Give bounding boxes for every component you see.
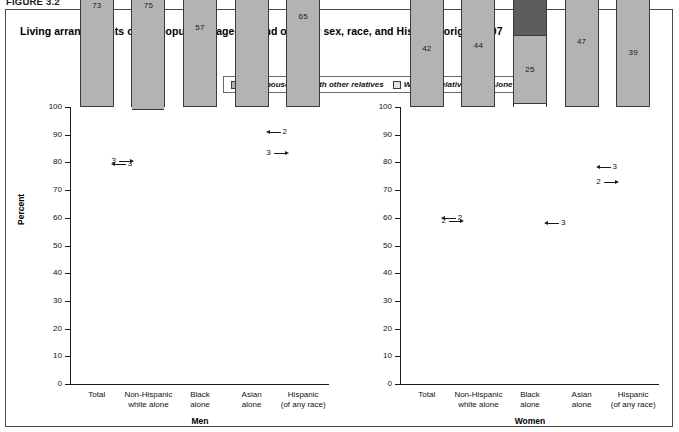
y-axis-tick — [65, 107, 70, 108]
value-callout: 2 — [596, 178, 600, 186]
y-axis-tick-label: 20 — [354, 325, 392, 333]
stacked-bar: 401444 — [461, 0, 495, 107]
callout-arrow-icon — [615, 180, 619, 184]
stacked-bar: 2941057 — [183, 0, 217, 107]
stacked-bar: 391742 — [410, 0, 444, 107]
bar-value-label: 57 — [195, 24, 204, 32]
y-axis-tick — [395, 301, 400, 302]
y-axis-tick — [65, 329, 70, 330]
bar-segment-with-spouse: 84 — [236, 0, 268, 107]
y-axis-tick-label: 50 — [24, 242, 62, 250]
x-axis-line — [70, 384, 329, 385]
callout-leader-line — [548, 223, 559, 224]
panel-group-label: Men — [71, 416, 329, 426]
value-callout: 2 — [441, 217, 445, 225]
callout-leader-line — [270, 132, 281, 133]
bar-value-label: 25 — [525, 66, 534, 74]
y-axis-tick — [395, 356, 400, 357]
callout-leader-line — [600, 167, 611, 168]
y-axis-tick — [395, 384, 400, 385]
y-axis-tick-label: 60 — [24, 214, 62, 222]
panel-group-label: Women — [401, 416, 659, 426]
callout-leader-line — [449, 221, 460, 222]
bar-segment-with-spouse: 75 — [132, 0, 164, 110]
legend-label: With other relatives — [309, 80, 383, 89]
bar-value-label: 75 — [144, 2, 153, 10]
y-axis-tick-label: 90 — [24, 131, 62, 139]
x-axis-line — [400, 384, 659, 385]
stacked-bar: 151765 — [286, 0, 320, 107]
callout-arrow-icon — [460, 219, 464, 223]
callout-leader-line — [445, 218, 456, 219]
category-label-line1: Hispanic — [594, 390, 672, 400]
y-axis-tick — [395, 135, 400, 136]
value-callout: 3 — [613, 163, 617, 171]
category-label-line1: Hispanic — [264, 390, 342, 400]
callout-leader-line — [119, 161, 130, 162]
y-axis-tick-label: 90 — [354, 131, 392, 139]
callout-arrow-icon — [266, 130, 270, 134]
y-axis-tick — [65, 246, 70, 247]
y-axis-line — [70, 107, 71, 384]
y-axis-tick-label: 70 — [24, 186, 62, 194]
y-axis-tick-label: 0 — [24, 380, 62, 388]
bar-value-label: 42 — [422, 45, 431, 53]
y-axis-tick — [65, 384, 70, 385]
bar-value-label: 47 — [577, 38, 586, 46]
value-callout: 3 — [561, 219, 565, 227]
y-axis-tick — [65, 273, 70, 274]
category-label-line2: (of any race) — [264, 400, 342, 410]
bar-segment-with-spouse: 47 — [566, 0, 598, 107]
y-axis-tick-label: 60 — [354, 214, 392, 222]
y-axis-line — [400, 107, 401, 384]
category-label-line2: (of any race) — [594, 400, 672, 410]
y-axis-title: Percent — [16, 194, 26, 225]
y-axis-tick-label: 50 — [354, 242, 392, 250]
y-axis-tick-label: 40 — [24, 269, 62, 277]
callout-arrow-icon — [285, 151, 289, 155]
figure-number: FIGURE 3.2 — [6, 0, 60, 7]
y-axis-tick — [395, 107, 400, 108]
bar-value-label: 65 — [299, 13, 308, 21]
y-axis-tick-label: 30 — [354, 297, 392, 305]
y-axis-tick — [65, 356, 70, 357]
y-axis-tick — [395, 190, 400, 191]
y-axis-tick — [395, 162, 400, 163]
y-axis-tick — [395, 273, 400, 274]
stacked-bar: 263339 — [616, 0, 650, 107]
stacked-bar: 203047 — [565, 0, 599, 107]
stacked-bar: 8684 — [235, 0, 269, 107]
callout-arrow-icon — [130, 159, 134, 163]
bar-segment-with-spouse: 44 — [462, 0, 494, 107]
figure-panel: Living arrangements of the population ag… — [5, 9, 673, 427]
bar-value-label: 44 — [474, 42, 483, 50]
y-axis-tick-label: 80 — [354, 158, 392, 166]
y-axis-tick-label: 30 — [24, 297, 62, 305]
bar-segment-with-spouse: 39 — [617, 0, 649, 107]
callout-leader-line — [274, 153, 285, 154]
y-axis-tick-label: 20 — [24, 325, 62, 333]
bar-segment-with-spouse: 42 — [411, 0, 443, 107]
y-axis-tick-label: 80 — [24, 158, 62, 166]
value-callout: 2 — [283, 128, 287, 136]
bar-value-label: 39 — [629, 49, 638, 57]
stacked-bar: 19573 — [80, 0, 114, 107]
bar-segment-with-spouse: 25 — [514, 35, 546, 104]
callout-arrow-icon — [596, 165, 600, 169]
y-axis-tick — [65, 190, 70, 191]
value-callout: 3 — [266, 149, 270, 157]
y-axis-tick — [395, 218, 400, 219]
legend-swatch-icon-with_nonrelatives — [393, 81, 401, 89]
bar-segment-with-spouse: 57 — [184, 0, 216, 107]
x-axis-category-label: Hispanic(of any race) — [594, 390, 672, 409]
y-axis-tick — [65, 135, 70, 136]
y-axis-tick-label: 10 — [24, 352, 62, 360]
callout-leader-line — [604, 182, 615, 183]
bar-segment-with-other-relatives: 32 — [514, 0, 546, 35]
callout-arrow-icon — [544, 221, 548, 225]
callout-leader-line — [115, 164, 126, 165]
y-axis-tick — [65, 162, 70, 163]
y-axis-tick-label: 0 — [354, 380, 392, 388]
y-axis-tick-label: 10 — [354, 352, 392, 360]
stacked-bar: 403225 — [513, 0, 547, 107]
